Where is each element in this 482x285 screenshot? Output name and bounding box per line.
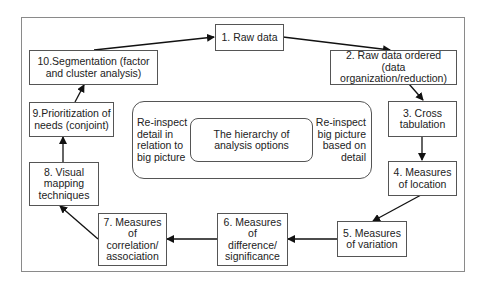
arrow-9-to-10 bbox=[75, 85, 84, 102]
arrow-1-to-2 bbox=[283, 37, 390, 50]
step-6-measures-of-difference: 6. Measures of difference/ significance bbox=[217, 213, 288, 266]
center-right-note: Re-inspect big picture based on detail bbox=[314, 117, 366, 163]
step-2-raw-data-ordered: 2. Raw data ordered (data organization/r… bbox=[330, 50, 457, 85]
arrow-4-to-5 bbox=[373, 195, 421, 221]
center-left-note: Re-inspect detail in relation to big pic… bbox=[137, 117, 187, 163]
step-8-visual-mapping: 8. Visual mapping techniques bbox=[29, 162, 99, 206]
center-hub-title: The hierarchy of analysis options bbox=[190, 118, 313, 162]
arrow-7-to-8 bbox=[60, 206, 98, 239]
step-1-raw-data: 1. Raw data bbox=[215, 24, 284, 51]
step-10-segmentation: 10.Segmentation (factor and cluster anal… bbox=[29, 50, 158, 85]
step-5-measures-of-variation: 5. Measures of variation bbox=[337, 221, 407, 257]
arrow-2-to-3 bbox=[409, 84, 423, 100]
step-9-prioritization: 9.Prioritization of needs (conjoint) bbox=[29, 102, 114, 137]
step-3-cross-tabulation: 3. Cross tabulation bbox=[388, 101, 457, 137]
arrow-10-to-1 bbox=[94, 37, 214, 50]
step-7-measures-of-correlation: 7. Measures of correlation/ association bbox=[98, 213, 167, 266]
step-4-measures-of-location: 4. Measures of location bbox=[388, 161, 457, 196]
